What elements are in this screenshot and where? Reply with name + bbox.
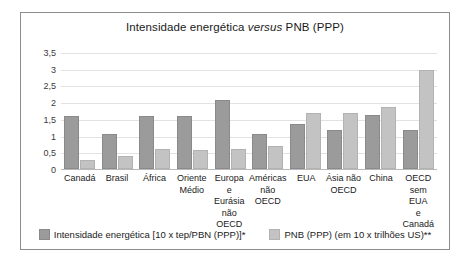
- bar-group: [136, 53, 174, 169]
- bar-group: [287, 53, 325, 169]
- bar: [327, 130, 342, 169]
- legend-swatch-icon-series-1: [269, 229, 280, 240]
- chart-title-before: Intensidade energética: [126, 21, 248, 33]
- bar-group: [99, 53, 137, 169]
- bar: [419, 70, 434, 169]
- y-axis-tick-label: 3: [51, 65, 56, 75]
- x-axis-category-labels: CanadáBrasilÁfricaOriente MédioEuropa e …: [61, 173, 437, 231]
- x-axis-category-label: EUA: [287, 173, 324, 185]
- bar: [403, 130, 418, 169]
- bar: [64, 116, 79, 169]
- x-axis-category-label: Brasil: [98, 173, 135, 185]
- x-axis-category-label: Europa e Eurásia não OECD: [211, 173, 248, 231]
- y-axis-tick-label: 1: [51, 132, 56, 142]
- bar: [155, 149, 170, 169]
- bar: [139, 116, 154, 169]
- bar-group: [399, 53, 437, 169]
- plot-area: 00,511,522,533,5: [61, 53, 437, 170]
- legend-label-series-0: Intensidade energética [10 x tep/PBN (PP…: [54, 229, 246, 240]
- chart-figure: Intensidade energética versus PNB (PPP) …: [20, 12, 450, 250]
- bar: [177, 116, 192, 169]
- bar-group: [61, 53, 99, 169]
- legend-item-pnb-ppp: PNB (PPP) (em 10 x trilhões US)**: [269, 229, 431, 240]
- y-axis-tick-label: 1,5: [43, 115, 56, 125]
- bar-group: [174, 53, 212, 169]
- bar: [268, 146, 283, 169]
- chart-title-after: PNB (PPP): [282, 21, 344, 33]
- x-axis-category-label: Américas não OECD: [248, 173, 288, 208]
- legend-label-series-1: PNB (PPP) (em 10 x trilhões US)**: [284, 229, 431, 240]
- bar: [290, 124, 305, 169]
- bar: [193, 150, 208, 169]
- bar-group: [362, 53, 400, 169]
- bar: [118, 156, 133, 169]
- bar: [231, 149, 246, 169]
- bar: [80, 160, 95, 169]
- x-axis-category-label: África: [136, 173, 173, 185]
- x-axis-category-label: Oriente Médio: [173, 173, 210, 196]
- chart-legend: Intensidade energética [10 x tep/PBN (PP…: [21, 229, 449, 240]
- y-axis-tick-label: 2: [51, 98, 56, 108]
- bar-groups: [61, 53, 437, 169]
- bar: [343, 113, 358, 169]
- y-axis-tick-label: 2,5: [43, 81, 56, 91]
- bar-group: [211, 53, 249, 169]
- chart-title: Intensidade energética versus PNB (PPP): [21, 21, 449, 33]
- x-axis-category-label: China: [362, 173, 399, 185]
- x-axis-category-label: Ásia não OECD: [325, 173, 362, 196]
- bar: [306, 113, 321, 169]
- bar-group: [249, 53, 287, 169]
- legend-swatch-icon-series-0: [39, 229, 50, 240]
- bar: [365, 115, 380, 169]
- chart-title-emphasis: versus: [248, 21, 282, 33]
- legend-item-intensidade-energetica: Intensidade energética [10 x tep/PBN (PP…: [39, 229, 246, 240]
- bar: [102, 134, 117, 169]
- y-axis-tick-label: 3,5: [43, 48, 56, 58]
- bar: [381, 107, 396, 169]
- bar: [215, 100, 230, 169]
- y-axis-tick-label: 0,5: [43, 148, 56, 158]
- y-axis-tick-label: 0: [51, 165, 56, 175]
- bar-group: [324, 53, 362, 169]
- x-axis-category-label: OECD sem EUA e Canadá: [400, 173, 437, 231]
- bar: [252, 134, 267, 169]
- plot-wrapper: 00,511,522,533,5: [55, 53, 437, 170]
- x-axis-category-label: Canadá: [61, 173, 98, 185]
